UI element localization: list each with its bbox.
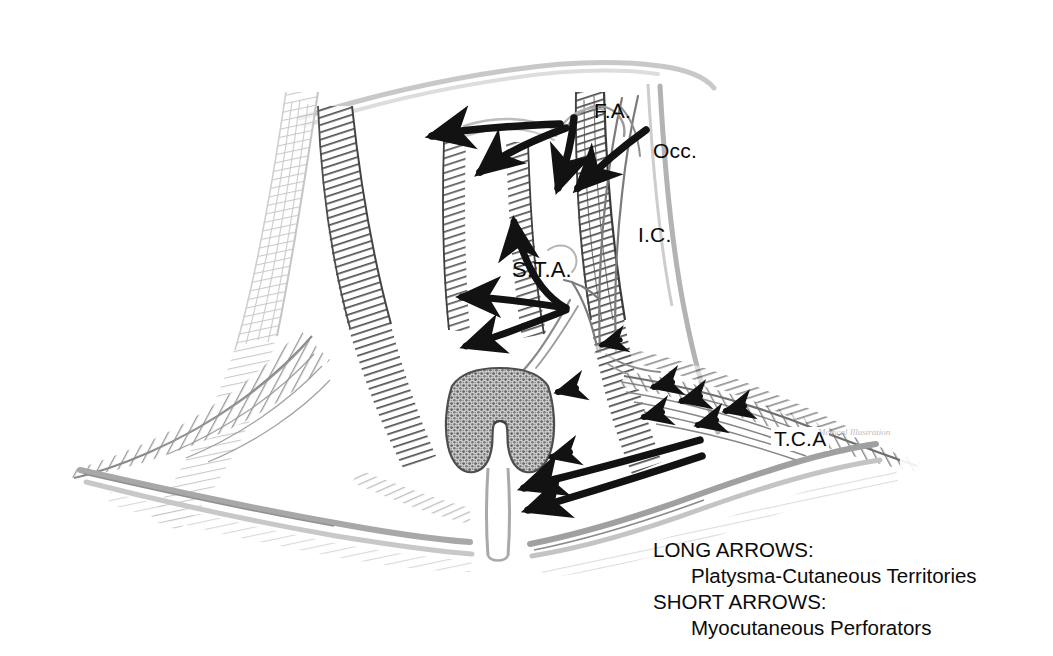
legend-long-arrows-heading: LONG ARROWS: [653, 537, 1043, 562]
legend: LONG ARROWS: Platysma-Cutaneous Territor… [653, 537, 1043, 641]
legend-short-arrows-description: Myocutaneous Perforators [653, 614, 1043, 641]
legend-long-arrows-description: Platysma-Cutaneous Territories [653, 562, 1043, 589]
label-facial-artery: F.A. [594, 100, 631, 121]
short-arrow-perforator-1 [558, 388, 576, 392]
anatomy-figure: F.A. Occ. I.C. S.T.A. T.C.A Medical Illu… [0, 0, 1053, 656]
label-occipital-artery: Occ. [653, 140, 697, 161]
artist-signature: Medical Illustration [818, 427, 890, 437]
label-internal-carotid: I.C. [638, 224, 671, 245]
legend-short-arrows-heading: SHORT ARROWS: [653, 589, 1043, 614]
label-superior-thyroid-artery: S.T.A. [512, 259, 572, 281]
